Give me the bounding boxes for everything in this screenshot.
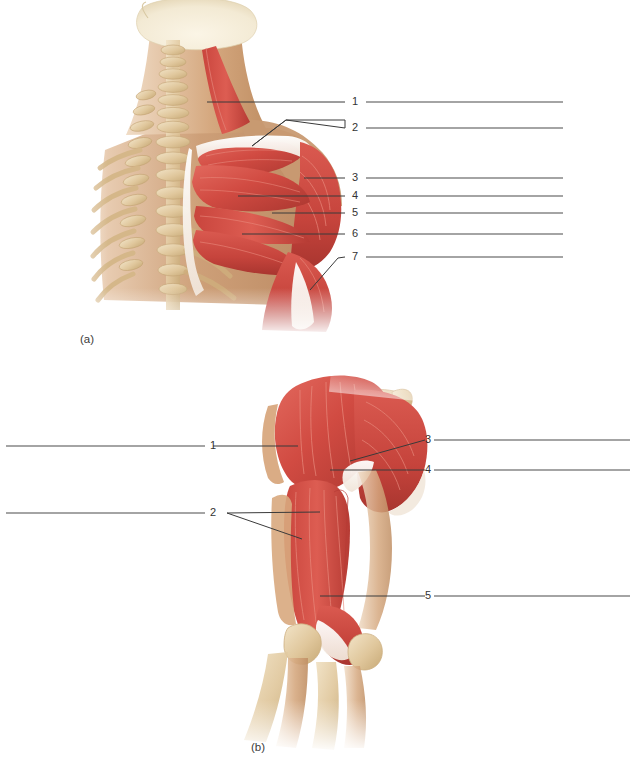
panel-b-illustration: [228, 366, 451, 750]
panel-b-label-5: 5: [425, 590, 431, 601]
panel-b-caption: (b): [251, 741, 265, 753]
panel-a-caption: (a): [80, 333, 94, 345]
panel-a-illustration: [60, 0, 348, 334]
panel-a-label-5: 5: [352, 207, 358, 218]
panel-a-label-6: 6: [352, 228, 358, 239]
panel-a-label-7: 7: [352, 251, 358, 262]
anatomy-illustration-canvas: [0, 0, 636, 762]
panel-a-label-3: 3: [352, 172, 358, 183]
panel-a-label-4: 4: [352, 190, 358, 201]
panel-b-label-1: 1: [210, 440, 216, 451]
panel-b-label-2: 2: [210, 507, 216, 518]
anatomy-worksheet-figure: 1 2 3 4 5 6 7 1 2 3 4 5 (a) (b): [0, 0, 636, 762]
panel-a-answer-lines: [366, 102, 563, 257]
panel-b-label-4: 4: [425, 464, 431, 475]
panel-a-label-1: 1: [352, 96, 358, 107]
panel-a-label-2: 2: [352, 122, 358, 133]
panel-b-label-3: 3: [425, 434, 431, 445]
